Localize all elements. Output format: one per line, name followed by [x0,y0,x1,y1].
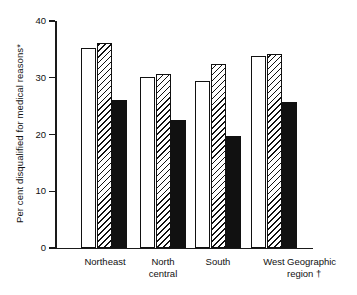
y-tick-label-40: 40 [16,15,46,26]
bar-hatched-bar [97,43,112,248]
bar-chart: Per cent disqualified for medical reason… [0,0,357,295]
bar-white-bar [81,48,96,248]
y-tick-label-30: 30 [16,72,46,83]
bar-group [140,21,186,248]
x-axis-title: Geographic region † [287,256,336,280]
bar-group [251,21,297,248]
bar-black-bar [112,100,127,248]
bar-white-bar [195,81,210,248]
y-tick-label-0: 0 [16,242,46,253]
bar-group [195,21,241,248]
bar-black-bar [226,136,241,248]
bar-black-bar [171,120,186,248]
y-tick-label-10: 10 [16,185,46,196]
bar-hatched-bar [211,64,226,248]
plot-area [55,21,313,248]
bar-white-bar [251,56,266,248]
bar-hatched-bar [267,54,282,248]
bar-white-bar [140,77,155,248]
bar-black-bar [282,102,297,248]
bar-group [81,21,127,248]
bar-hatched-bar [156,74,171,248]
y-tick-label-20: 20 [16,129,46,140]
